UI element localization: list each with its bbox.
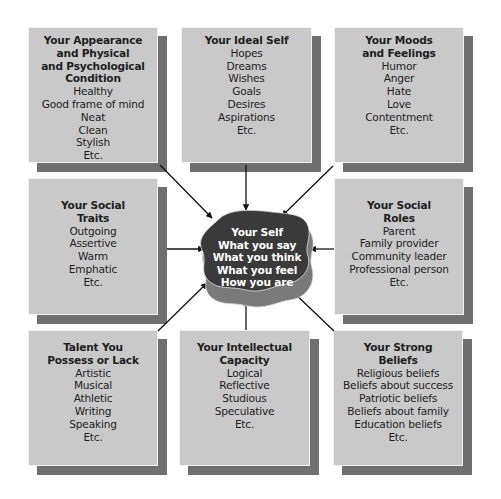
center-item: What you feel — [205, 264, 309, 277]
center-title: Your Self — [205, 226, 309, 239]
center-item: What you say — [205, 239, 309, 252]
arrow-from-appearance — [160, 165, 212, 218]
center-item: What you think — [205, 251, 309, 264]
center-item: How you are — [205, 276, 309, 289]
arrow-from-moods — [282, 166, 333, 216]
center-label: Your Self What you say What you think Wh… — [205, 226, 309, 289]
arrow-from-talent — [158, 283, 207, 331]
